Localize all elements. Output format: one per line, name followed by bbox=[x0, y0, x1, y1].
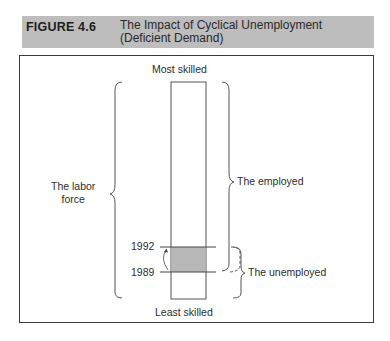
year-1992-label: 1992 bbox=[131, 240, 154, 252]
least-skilled-label: Least skilled bbox=[155, 306, 213, 318]
unemployed-brace bbox=[233, 247, 245, 298]
employed-label: The employed bbox=[237, 175, 304, 187]
arrow-head-icon bbox=[164, 249, 168, 253]
labor-force-brace bbox=[110, 82, 122, 298]
dashed-bracket bbox=[230, 247, 240, 272]
labor-force-label: The labor force bbox=[51, 180, 95, 206]
shift-arrow bbox=[163, 250, 168, 270]
skill-column-diagram bbox=[0, 0, 390, 341]
labor-force-label-line1: The labor bbox=[51, 180, 95, 193]
labor-force-label-line2: force bbox=[51, 193, 95, 206]
unemployed-band bbox=[172, 247, 206, 272]
employed-brace bbox=[222, 82, 234, 271]
unemployed-label: The unemployed bbox=[248, 266, 326, 278]
most-skilled-label: Most skilled bbox=[152, 63, 207, 75]
year-1989-label: 1989 bbox=[131, 266, 154, 278]
